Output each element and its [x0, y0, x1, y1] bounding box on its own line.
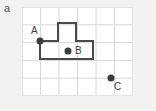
point-marker-a [37, 38, 44, 45]
point-label-c: C [114, 82, 121, 92]
point-marker-b [65, 48, 72, 55]
panel-label: a [4, 1, 10, 15]
grid-plot-area: A B C [22, 7, 133, 96]
point-label-b: B [75, 46, 82, 56]
point-label-a: A [31, 26, 38, 36]
figure-panel: a A B C [0, 0, 156, 111]
